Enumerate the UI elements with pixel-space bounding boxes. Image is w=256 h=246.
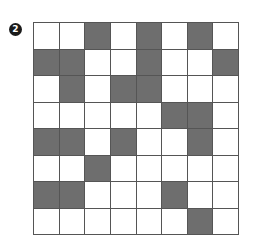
grid-cell-r0-c7 [213, 23, 238, 49]
grid-cell-r0-c2 [85, 23, 110, 49]
grid-cell-r2-c5 [162, 76, 187, 102]
grid-cell-r5-c1 [60, 156, 85, 182]
grid-cell-r3-c5 [162, 103, 187, 129]
grid-cell-r6-c2 [85, 182, 110, 208]
grid-cell-r0-c1 [60, 23, 85, 49]
grid-cell-r5-c6 [188, 156, 213, 182]
grid-cell-r1-c0 [34, 50, 59, 76]
grid-cell-r3-c3 [111, 103, 136, 129]
grid-cell-r4-c7 [213, 129, 238, 155]
grid-cell-r4-c4 [137, 129, 162, 155]
grid-cell-r7-c5 [162, 209, 187, 235]
grid-cell-r5-c2 [85, 156, 110, 182]
grid-cell-r7-c1 [60, 209, 85, 235]
grid-cell-r4-c3 [111, 129, 136, 155]
grid-cell-r7-c3 [111, 209, 136, 235]
grid-cell-r6-c6 [188, 182, 213, 208]
grid-cell-r4-c0 [34, 129, 59, 155]
grid-cell-r5-c7 [213, 156, 238, 182]
grid-cell-r2-c0 [34, 76, 59, 102]
grid-cell-r2-c7 [213, 76, 238, 102]
grid-cell-r2-c3 [111, 76, 136, 102]
grid-cell-r7-c6 [188, 209, 213, 235]
grid-cell-r6-c7 [213, 182, 238, 208]
grid-cell-r7-c7 [213, 209, 238, 235]
grid-cell-r6-c4 [137, 182, 162, 208]
grid-cell-r0-c5 [162, 23, 187, 49]
grid-cell-r5-c3 [111, 156, 136, 182]
grid-cell-r7-c4 [137, 209, 162, 235]
grid-cell-r5-c4 [137, 156, 162, 182]
grid-cell-r0-c0 [34, 23, 59, 49]
grid-cell-r1-c4 [137, 50, 162, 76]
grid-cell-r6-c3 [111, 182, 136, 208]
puzzle-number-badge: 2 [9, 23, 22, 36]
grid-cell-r5-c5 [162, 156, 187, 182]
grid-cell-r3-c4 [137, 103, 162, 129]
grid-cell-r1-c1 [60, 50, 85, 76]
grid-cell-r6-c0 [34, 182, 59, 208]
grid-cell-r3-c2 [85, 103, 110, 129]
grid-cell-r3-c0 [34, 103, 59, 129]
grid-cell-r0-c6 [188, 23, 213, 49]
grid-cell-r1-c7 [213, 50, 238, 76]
grid-cell-r1-c5 [162, 50, 187, 76]
grid-cell-r2-c4 [137, 76, 162, 102]
grid-cell-r2-c6 [188, 76, 213, 102]
grid-cell-r1-c2 [85, 50, 110, 76]
grid-cell-r1-c6 [188, 50, 213, 76]
grid-cell-r7-c0 [34, 209, 59, 235]
grid-cell-r0-c4 [137, 23, 162, 49]
grid-cell-r5-c0 [34, 156, 59, 182]
grid-cell-r4-c5 [162, 129, 187, 155]
grid-cell-r0-c3 [111, 23, 136, 49]
shaded-grid [33, 22, 239, 235]
grid-cell-r4-c6 [188, 129, 213, 155]
grid-cell-r1-c3 [111, 50, 136, 76]
grid-cell-r4-c2 [85, 129, 110, 155]
grid-cell-r3-c7 [213, 103, 238, 129]
grid-cell-r4-c1 [60, 129, 85, 155]
grid-cell-r3-c6 [188, 103, 213, 129]
grid-cell-r6-c5 [162, 182, 187, 208]
grid-cell-r2-c2 [85, 76, 110, 102]
grid-cell-r6-c1 [60, 182, 85, 208]
grid-cell-r7-c2 [85, 209, 110, 235]
grid-cell-r2-c1 [60, 76, 85, 102]
grid-cell-r3-c1 [60, 103, 85, 129]
